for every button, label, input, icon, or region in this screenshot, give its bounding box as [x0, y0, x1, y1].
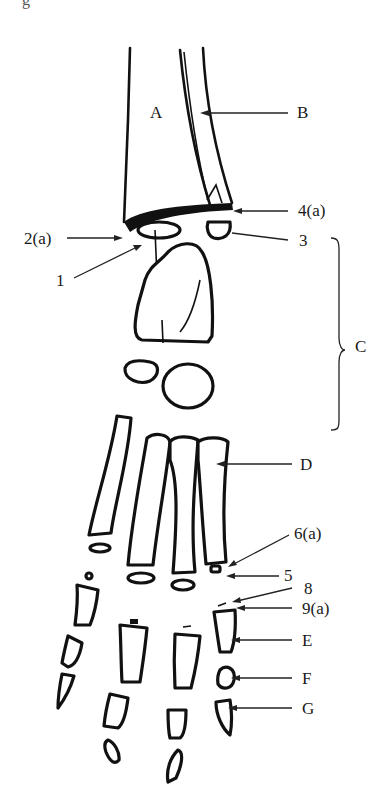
label-8: 8	[304, 580, 313, 597]
label-2a: 2(a)	[24, 230, 51, 247]
bone-diagram: g	[0, 0, 383, 812]
carpal-1	[138, 222, 180, 238]
label-9a: 9(a)	[302, 600, 329, 617]
carpal-3	[207, 222, 230, 238]
label-4a: 4(a)	[298, 202, 325, 219]
radius-bone	[124, 48, 233, 232]
diagram-drawing	[0, 0, 383, 812]
label-5: 5	[284, 567, 293, 584]
carpal-round	[163, 364, 213, 408]
label-c: C	[355, 338, 366, 355]
cropped-caption-fragment: g	[22, 0, 30, 9]
label-d: D	[300, 456, 312, 473]
label-a: A	[150, 104, 162, 121]
label-f: F	[302, 670, 311, 687]
leader-lines	[67, 110, 292, 711]
metacarpals	[89, 416, 228, 590]
digit-left	[58, 573, 98, 708]
label-e: E	[302, 632, 312, 649]
label-3: 3	[299, 232, 308, 249]
label-b: B	[297, 104, 308, 121]
digit-2	[104, 619, 147, 762]
bracket-c	[331, 238, 345, 430]
carpal-large	[135, 244, 212, 342]
label-g: G	[302, 700, 314, 717]
digit-right	[214, 603, 235, 735]
ulna-bone	[203, 48, 232, 203]
carpal-small-left	[125, 361, 158, 382]
label-1: 1	[56, 272, 65, 289]
label-6a: 6(a)	[294, 525, 321, 542]
digit-3	[167, 626, 200, 782]
